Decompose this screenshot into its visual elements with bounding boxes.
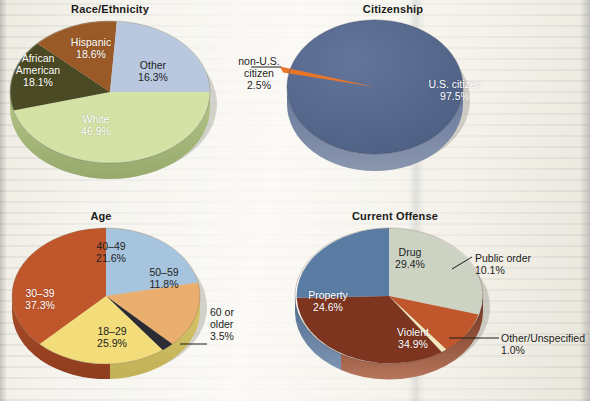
label-african-american: African American 18.1% [2, 52, 74, 89]
label-18-29: 18–29 25.9% [82, 325, 142, 349]
label-white: White 46.9% [56, 113, 136, 137]
label-white-value: 46.9% [81, 125, 111, 137]
label-drug-value: 29.4% [395, 258, 425, 270]
label-40-49: 40–49 21.6% [82, 240, 140, 264]
label-30-39-value: 37.3% [25, 299, 55, 311]
label-non-us-value: 2.5% [247, 79, 271, 91]
label-public-order: Public order 10.1% [475, 252, 565, 276]
label-drug-text: Drug [399, 246, 422, 258]
label-public-order-text: Public order [475, 252, 531, 264]
label-aa-line1: African [22, 52, 55, 64]
chart-current-offense: Current Offense [295, 200, 590, 401]
chart-race-ethnicity: Race/Ethnicity [0, 0, 295, 200]
label-60-line1: 60 or [210, 306, 234, 318]
label-property-value: 24.6% [313, 301, 343, 313]
label-60-or-older: 60 or older 3.5% [210, 306, 280, 343]
label-violent: Violent 34.9% [381, 326, 445, 350]
label-white-text: White [83, 113, 110, 125]
chart-title-race: Race/Ethnicity [55, 3, 165, 15]
label-18-29-text: 18–29 [97, 325, 126, 337]
chart-title-offense: Current Offense [330, 210, 460, 222]
label-property-text: Property [308, 289, 348, 301]
label-40-49-text: 40–49 [96, 240, 125, 252]
label-hispanic-text: Hispanic [71, 36, 111, 48]
label-30-39-text: 30–39 [25, 287, 54, 299]
label-40-49-value: 21.6% [96, 252, 126, 264]
label-18-29-value: 25.9% [97, 337, 127, 349]
label-drug: Drug 29.4% [381, 246, 439, 270]
label-violent-value: 34.9% [398, 338, 428, 350]
label-other-unspecified-value: 1.0% [501, 344, 525, 356]
label-us-citizen-value: 97.5% [440, 90, 470, 102]
label-other-race-value: 16.3% [138, 71, 168, 83]
pie-slice-property[interactable] [297, 228, 389, 298]
label-us-citizen-text: U.S. citizen [428, 78, 481, 90]
chart-title-age: Age [78, 210, 124, 222]
label-hispanic-value: 18.6% [76, 48, 106, 60]
label-other-unspecified: Other/Unspecified 1.0% [501, 332, 590, 356]
label-30-39: 30–39 37.3% [10, 287, 70, 311]
label-60-value: 3.5% [210, 330, 234, 342]
label-non-us-line1: non-U.S. [238, 55, 279, 67]
label-public-order-value: 10.1% [475, 264, 505, 276]
label-aa-value: 18.1% [23, 76, 53, 88]
label-50-59-value: 11.8% [150, 278, 179, 290]
label-non-us-citizen: non-U.S. citizen 2.5% [223, 55, 295, 92]
label-us-citizen: U.S. citizen 97.5% [410, 78, 500, 102]
chart-age: Age [0, 200, 295, 401]
label-50-59: 50–59 11.8% [135, 266, 193, 290]
label-50-59-text: 50–59 [149, 266, 178, 278]
label-other-race-text: Other [140, 59, 166, 71]
label-non-us-line2: citizen [244, 67, 274, 79]
chart-citizenship: Citizenship U.S. citizen [295, 0, 590, 200]
label-60-line2: older [210, 318, 233, 330]
label-aa-line2: American [16, 64, 60, 76]
label-violent-text: Violent [397, 326, 429, 338]
label-property: Property 24.6% [291, 289, 365, 313]
label-other-unspecified-text: Other/Unspecified [501, 332, 585, 344]
label-other-race: Other 16.3% [124, 59, 182, 83]
